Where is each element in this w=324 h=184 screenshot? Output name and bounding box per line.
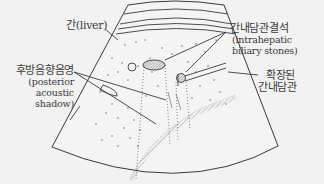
label-intrahepatic-stones: 간내담관결석 (intrahepatic biliary stones) — [230, 23, 298, 57]
label-liver: 간(liver) — [66, 20, 107, 32]
label-posterior-shadow: 후방음향음영 (posterior acoustic shadow) — [6, 65, 74, 109]
stone-large — [143, 60, 165, 70]
label-stones-en-2: biliary stones) — [232, 46, 298, 57]
label-shadow-en-2: acoustic — [6, 88, 74, 99]
label-dilated-duct-2: 간내담관 — [258, 82, 297, 94]
label-dilated-duct: 확장된 간내담관 — [258, 70, 297, 95]
label-shadow-en-3: shadow) — [6, 99, 74, 110]
